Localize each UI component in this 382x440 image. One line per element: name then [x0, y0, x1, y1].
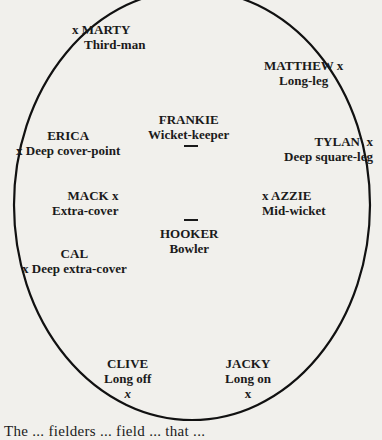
fielder-marker-icon: x: [104, 386, 151, 401]
fielder-name: x MARTY: [72, 22, 145, 37]
fielder-position: Bowler: [160, 241, 219, 256]
fielder-position: Mid-wicket: [262, 203, 326, 218]
fielder-name: CLIVE: [104, 356, 151, 371]
fielder-tylan: TYLAN x Deep square-leg: [284, 134, 373, 164]
fielder-marker-icon: x: [225, 386, 271, 401]
fielder-name: CAL: [22, 246, 127, 261]
fielder-cal: CAL x Deep extra-cover: [22, 246, 127, 276]
fielder-name: JACKY: [225, 356, 271, 371]
fielder-position: Long on: [225, 371, 271, 386]
fielder-marty: x MARTY Third-man: [72, 22, 145, 52]
fielder-marker-icon: x: [72, 22, 79, 37]
fielder-name: MATTHEW x: [264, 58, 343, 73]
fielder-azzie: x AZZIE Mid-wicket: [262, 188, 326, 218]
fielder-matthew: MATTHEW x Long-leg: [264, 58, 343, 88]
fielder-position: Long off: [104, 371, 151, 386]
fielder-frankie: FRANKIE Wicket-keeper: [148, 112, 229, 142]
fielder-erica: ERICA x Deep cover-point: [16, 128, 120, 158]
fielder-name: MACK x: [52, 188, 118, 203]
fielder-position: x Deep extra-cover: [22, 261, 127, 276]
bowler-end-crease: [184, 219, 198, 221]
fielder-name: FRANKIE: [148, 112, 229, 127]
fielder-position: Third-man: [72, 37, 145, 52]
fielder-marker-icon: x: [366, 134, 373, 149]
fielder-position: Wicket-keeper: [148, 127, 229, 142]
fielder-name: x AZZIE: [262, 188, 326, 203]
fielder-marker-icon: x: [22, 261, 29, 276]
fielder-hooker: HOOKER Bowler: [160, 226, 219, 256]
fielder-name: HOOKER: [160, 226, 219, 241]
caption-clipped-line: The ... fielders ... field ... that ...: [0, 422, 382, 440]
fielder-position: x Deep cover-point: [16, 143, 120, 158]
fielder-position: Extra-cover: [52, 203, 118, 218]
fielder-marker-icon: x: [262, 188, 269, 203]
fielder-name: ERICA: [16, 128, 120, 143]
fielder-name: TYLAN x: [284, 134, 373, 149]
fielder-position: Long-leg: [264, 73, 343, 88]
fielder-marker-icon: x: [337, 58, 344, 73]
fielder-marker-icon: x: [112, 188, 119, 203]
fielder-position: Deep square-leg: [284, 149, 373, 164]
fielder-jacky: JACKY Long on x: [225, 356, 271, 401]
fielder-clive: CLIVE Long off x: [104, 356, 151, 401]
fielder-mack: MACK x Extra-cover: [52, 188, 118, 218]
wicket-keeper-end-crease: [184, 145, 198, 147]
fielder-marker-icon: x: [16, 143, 23, 158]
